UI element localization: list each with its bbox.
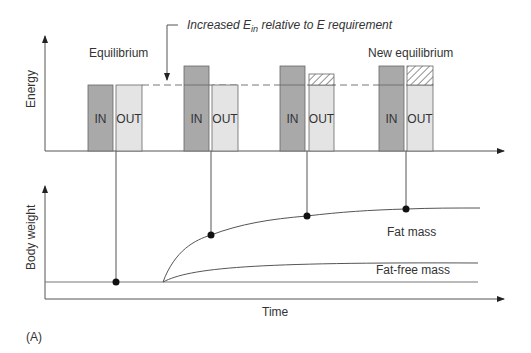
panel-label: (A): [26, 330, 42, 344]
bar-in-label: IN: [191, 112, 203, 126]
bar-out-label: OUT: [212, 112, 238, 126]
bar-group-adaptation: IN OUT: [280, 66, 335, 151]
bar-in: [184, 66, 209, 151]
point-adaptation: [304, 213, 311, 220]
energy-axis-label: Energy: [24, 70, 38, 108]
point-equilibrium: [113, 279, 120, 286]
bar-in-label: IN: [386, 112, 398, 126]
bar-group-new-equilibrium: IN OUT: [379, 66, 433, 151]
time-axis-label: Time: [262, 305, 289, 319]
annotation-pointer: [167, 25, 178, 80]
bar-group-equilibrium: IN OUT: [88, 85, 142, 151]
bar-group-increased-intake: IN OUT: [184, 66, 238, 151]
body-weight-chart: Body weight Time Fat-free mass Fat mass: [24, 186, 504, 319]
body-weight-axis-label: Body weight: [24, 204, 38, 270]
point-new-equilibrium: [403, 206, 410, 213]
energy-balance-diagram: Energy Equilibrium New equilibrium Incre…: [0, 0, 531, 353]
bar-in-label: IN: [95, 112, 107, 126]
bar-out-label: OUT: [407, 112, 433, 126]
fat-free-mass-label: Fat-free mass: [376, 263, 450, 277]
bar-out-label: OUT: [116, 112, 142, 126]
equilibrium-label: Equilibrium: [89, 46, 148, 60]
fat-mass-label: Fat mass: [387, 225, 436, 239]
energy-chart: Energy Equilibrium New equilibrium Incre…: [24, 18, 504, 151]
annotation-text: Increased Ein relative to E requirement: [187, 18, 393, 34]
bar-in: [280, 66, 305, 151]
bar-out-increase: [407, 66, 433, 85]
bar-out-increase: [309, 74, 334, 85]
point-increased-intake: [208, 232, 215, 239]
bar-in: [379, 66, 404, 151]
bar-in-label: IN: [287, 112, 299, 126]
new-equilibrium-label: New equilibrium: [368, 46, 453, 60]
bar-out-label: OUT: [309, 112, 335, 126]
connector-lines: [116, 151, 406, 282]
